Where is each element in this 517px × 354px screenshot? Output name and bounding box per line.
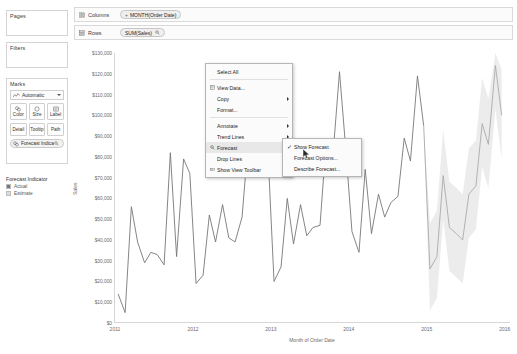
- forecast-indicator-legend: Forecast Indicator Actual Estimate: [6, 176, 68, 198]
- y-axis-tick-label: $80,000: [95, 154, 115, 159]
- x-axis-tick-label: 2013: [265, 326, 276, 332]
- y-axis-tick-label: $70,000: [95, 175, 115, 180]
- menu-item-trend-lines[interactable]: Trend Lines: [206, 131, 292, 142]
- marks-color-pill-forecast-indicator[interactable]: Forecast Indica..: [10, 139, 64, 148]
- menu-item-forecast[interactable]: Forecast: [206, 142, 292, 153]
- legend-label-actual: Actual: [14, 184, 27, 189]
- forecast-submenu[interactable]: ✓Show ForecastForecast Options...Describ…: [282, 138, 362, 177]
- color-icon: [13, 141, 19, 147]
- menu-item-label: View Data...: [217, 85, 289, 91]
- menu-separator: [210, 117, 288, 118]
- marks-button-color[interactable]: Color: [10, 103, 27, 120]
- toolbar-icon: [208, 167, 217, 172]
- forecast-icon: [54, 141, 59, 146]
- filters-shelf[interactable]: Filters: [6, 42, 68, 68]
- check-icon: ✓: [285, 144, 294, 150]
- pages-shelf-title: Pages: [7, 11, 67, 20]
- rows-shelf[interactable]: Rows SUM(Sales): [74, 25, 513, 40]
- marks-button-path-label: Path: [51, 127, 60, 132]
- submenu-item-describe-forecast[interactable]: Describe Forecast...: [283, 163, 361, 174]
- filters-shelf-title: Filters: [7, 43, 67, 52]
- legend-swatch-actual: [6, 184, 11, 189]
- x-axis-tick-label: 2012: [187, 326, 198, 332]
- submenu-item-forecast-options[interactable]: Forecast Options...: [283, 152, 361, 163]
- forecast-confidence-band: [424, 53, 502, 311]
- submenu-item-label: Show Forecast: [294, 144, 329, 150]
- menu-item-format[interactable]: Format...: [206, 104, 292, 115]
- menu-item-select-all[interactable]: Select All: [206, 66, 292, 77]
- marks-button-detail-label: Detail: [12, 127, 24, 132]
- y-axis-tick-label: $110,000: [92, 92, 115, 97]
- columns-icon: [79, 12, 85, 18]
- mark-type-label: Automatic: [22, 92, 57, 98]
- submenu-item-show-forecast[interactable]: ✓Show Forecast: [283, 141, 361, 152]
- view-canvas[interactable]: Sales $130,000$120,000$110,000$100,000$9…: [74, 45, 513, 350]
- color-icon: [15, 106, 21, 112]
- x-axis-tick-label: 2011: [110, 326, 121, 332]
- rows-icon: [79, 30, 85, 36]
- marks-card: Marks Automatic Color: [6, 78, 68, 164]
- menu-item-label: Forecast: [217, 145, 285, 151]
- y-axis-tick-label: $20,000: [95, 279, 115, 284]
- marks-color-pill-label: Forecast Indica..: [21, 141, 54, 146]
- forecast-icon: [155, 30, 160, 35]
- plot-area[interactable]: $130,000$120,000$110,000$100,000$90,000$…: [114, 53, 510, 323]
- marks-button-path[interactable]: Path: [47, 123, 64, 136]
- x-axis-tick-label: 2015: [421, 326, 432, 332]
- menu-item-view-data[interactable]: View Data...: [206, 82, 292, 93]
- marks-button-label-label: Label: [50, 112, 61, 117]
- expand-plus-icon[interactable]: +: [125, 12, 128, 18]
- sidebar: Pages Filters Marks Automatic Color: [0, 0, 72, 354]
- columns-shelf[interactable]: Columns + MONTH(Order Date): [74, 7, 513, 22]
- legend-item-estimate[interactable]: Estimate: [6, 191, 68, 196]
- chart-svg: [115, 53, 511, 323]
- menu-item-drop-lines[interactable]: Drop Lines: [206, 153, 292, 164]
- chevron-right-icon: [287, 124, 289, 128]
- x-axis-title: Month of Order Date: [114, 337, 510, 343]
- chevron-right-icon: [287, 97, 289, 101]
- menu-item-copy[interactable]: Copy: [206, 93, 292, 104]
- y-axis-tick-label: $90,000: [95, 134, 115, 139]
- legend-label-estimate: Estimate: [14, 191, 33, 196]
- y-axis-tick-label: $30,000: [95, 258, 115, 263]
- marks-button-color-label: Color: [13, 112, 24, 117]
- y-axis-tick-label: $130,000: [92, 51, 115, 56]
- submenu-item-label: Describe Forecast...: [294, 166, 340, 172]
- x-axis-tick-label: 2014: [343, 326, 354, 332]
- pages-shelf[interactable]: Pages: [6, 10, 68, 36]
- marks-card-title: Marks: [7, 79, 67, 88]
- menu-item-label: Annotate: [217, 123, 285, 129]
- y-axis-tick-label: $100,000: [92, 113, 115, 118]
- marks-button-label[interactable]: Label: [47, 103, 64, 120]
- y-axis-tick-label: $0: [107, 321, 115, 326]
- marks-buttons-row1: Color Size Label: [7, 102, 67, 120]
- y-axis-tick-label: $10,000: [95, 300, 115, 305]
- marks-buttons-row2: Detail Tooltip Path: [7, 122, 67, 136]
- legend-title: Forecast Indicator: [6, 176, 68, 182]
- size-icon: [34, 106, 40, 112]
- menu-item-label: Drop Lines: [217, 156, 285, 162]
- marks-button-tooltip[interactable]: Tooltip: [29, 123, 46, 136]
- menu-item-show-view-toolbar[interactable]: Show View Toolbar: [206, 164, 292, 175]
- mark-type-dropdown[interactable]: Automatic: [10, 90, 64, 100]
- y-axis-tick-label: $120,000: [92, 71, 115, 76]
- columns-field-pill[interactable]: + MONTH(Order Date): [120, 10, 181, 20]
- marks-button-tooltip-label: Tooltip: [30, 127, 43, 132]
- menu-item-label: Format...: [217, 107, 289, 113]
- legend-item-actual[interactable]: Actual: [6, 184, 68, 189]
- y-axis-tick-label: $40,000: [95, 237, 115, 242]
- context-menu[interactable]: Select AllView Data...CopyFormat...Annot…: [205, 63, 293, 178]
- marks-button-detail[interactable]: Detail: [10, 123, 27, 136]
- menu-item-annotate[interactable]: Annotate: [206, 120, 292, 131]
- chevron-down-icon: [57, 94, 61, 96]
- marks-button-size[interactable]: Size: [29, 103, 46, 120]
- tableau-worksheet: Pages Filters Marks Automatic Color: [0, 0, 517, 354]
- menu-item-label: Show View Toolbar: [217, 167, 289, 173]
- y-axis-tick-label: $60,000: [95, 196, 115, 201]
- menu-item-label: Trend Lines: [217, 134, 285, 140]
- forecast-icon: [208, 145, 217, 150]
- rows-shelf-label: Rows: [88, 30, 120, 36]
- columns-shelf-label: Columns: [88, 12, 120, 18]
- rows-field-pill[interactable]: SUM(Sales): [120, 28, 165, 38]
- menu-item-label: Copy: [217, 96, 285, 102]
